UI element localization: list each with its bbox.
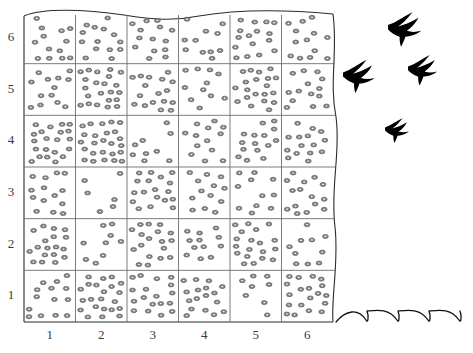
organism-dot-highlight [190,99,192,100]
organism-dot-highlight [318,96,320,97]
organism-dot-highlight [208,280,210,281]
organism-dot-highlight [171,311,173,312]
organism-dot-highlight [169,182,171,183]
organism-dot-highlight [203,246,205,247]
organism-dot-highlight [88,284,90,285]
organism-dot-highlight [218,73,220,74]
organism-dot-highlight [273,120,275,121]
organism-dot-highlight [132,201,134,202]
organism-dot-highlight [47,248,49,249]
organism-dot-highlight [286,284,288,285]
organism-dot-highlight [38,72,40,73]
organism-dot-highlight [326,105,328,106]
organism-dot-highlight [40,95,42,96]
organism-dot-highlight [236,57,238,58]
organism-dot-highlight [302,21,304,22]
organism-dot-highlight [160,303,162,304]
y-axis-tick-3: 3 [4,185,18,199]
organism-dot-highlight [56,281,58,282]
organism-dot-highlight [189,172,191,173]
organism-dot-highlight [172,207,174,208]
organism-dot-highlight [82,125,84,126]
quadrat-cell-r4-c1 [29,122,73,164]
organism-dot-highlight [64,257,66,258]
organism-dot-highlight [210,195,212,196]
organism-dot-highlight [148,58,150,59]
organism-dot-highlight [68,131,70,132]
organism-dot-highlight [157,231,159,232]
organism-dot-highlight [83,134,85,135]
organism-dot-highlight [272,179,274,180]
organism-dot-highlight [235,246,237,247]
organism-dot-highlight [321,78,323,79]
organism-dot-highlight [186,231,188,232]
organism-dot-highlight [252,43,254,44]
organism-dot-highlight [51,288,53,289]
organism-dot-highlight [272,259,274,260]
organism-dot-highlight [94,143,96,144]
organism-dot-highlight [262,251,264,252]
quadrat-cell-r5-c2 [78,68,124,110]
organism-dot-highlight [325,236,327,237]
organism-dot-highlight [84,149,86,150]
organism-dot-highlight [321,151,323,152]
organism-dot-highlight [54,152,56,153]
organism-dot-highlight [95,82,97,83]
quadrat-cell-r1-c3 [130,274,176,318]
organism-dot-highlight [152,38,154,39]
organism-dot-highlight [251,286,253,287]
organism-dot-highlight [107,17,109,18]
organism-dot-highlight [307,263,309,264]
organism-dot-highlight [183,280,185,281]
organism-dot-highlight [213,185,215,186]
organism-dot-highlight [196,298,198,299]
organism-dot-highlight [311,196,313,197]
organism-dot-highlight [268,40,270,41]
organism-dot-highlight [240,20,242,21]
organism-dot-highlight [314,177,316,178]
organism-dot-highlight [270,208,272,209]
organism-dot-highlight [252,276,254,277]
organism-dot-highlight [163,101,165,102]
organism-dot-highlight [83,243,85,244]
organism-dot-highlight [274,50,276,51]
organism-dot-highlight [292,73,294,74]
organism-dot-highlight [325,295,327,296]
organism-dot-highlight [206,174,208,175]
organism-dot-highlight [97,41,99,42]
organism-dot-highlight [85,57,87,58]
organism-dot-highlight [42,282,44,283]
organism-dot-highlight [65,288,67,289]
organism-dot-highlight [35,124,37,125]
organism-dot-highlight [241,231,243,232]
organism-dot-highlight [144,160,146,161]
organism-dot-highlight [267,78,269,79]
organism-dot-highlight [35,149,37,150]
organism-dot-highlight [170,110,172,111]
organism-dot-highlight [327,58,329,59]
organism-dot-highlight [301,145,303,146]
organism-dot-highlight [296,153,298,154]
organism-dot-highlight [314,50,316,51]
quadrat-cell-r4-c5 [236,119,279,162]
organism-dot-highlight [251,240,253,241]
organism-dot-highlight [289,276,291,277]
organism-dot-highlight [218,237,220,238]
organism-dot-highlight [103,308,105,309]
organism-dot-highlight [101,316,103,317]
organism-dot-highlight [96,71,98,72]
organism-dot-highlight [109,49,111,50]
organism-dot-highlight [320,279,322,280]
organism-dot-highlight [288,304,290,305]
organism-dot-highlight [161,79,163,80]
organism-dot-highlight [317,293,319,294]
organism-dot-highlight [46,138,48,139]
organism-dot-highlight [197,289,199,290]
organism-dot-highlight [258,72,260,73]
organism-dot-highlight [253,263,255,264]
organism-dot-highlight [298,136,300,137]
organism-dot-highlight [145,289,147,290]
organism-dot-highlight [147,311,149,312]
organism-dot-highlight [171,30,173,31]
organism-dot-highlight [111,223,113,224]
